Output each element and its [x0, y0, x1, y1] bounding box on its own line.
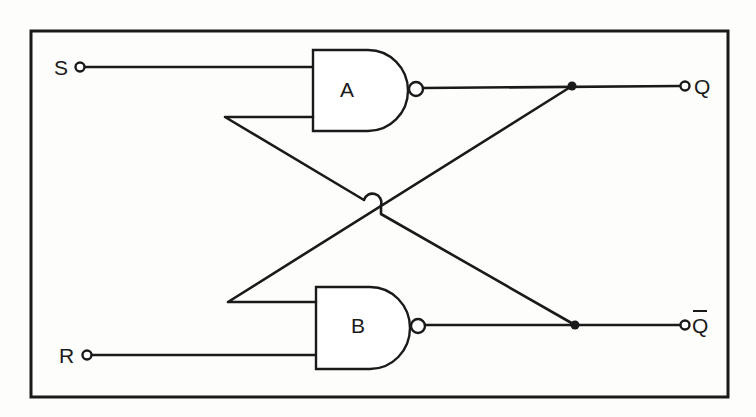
gate-b-label: B: [351, 314, 365, 337]
sr-latch-diagram: S R A B: [0, 0, 756, 417]
input-r-terminal: [83, 351, 92, 360]
output-qbar-label: Q: [692, 314, 708, 337]
output-qbar: Q: [681, 311, 709, 337]
junction-q: [568, 82, 577, 91]
feedback-qbar-to-gate-a: [225, 117, 575, 325]
input-s: S: [54, 56, 313, 79]
input-s-terminal: [76, 63, 85, 72]
nand-gate-b: B: [316, 287, 680, 369]
feedback-q-to-gate-b: [228, 86, 572, 302]
output-q: Q: [681, 75, 711, 98]
input-s-label: S: [54, 56, 68, 79]
gate-a-body: [313, 50, 408, 131]
output-q-terminal: [681, 82, 690, 91]
nand-gate-a: A: [313, 50, 680, 131]
output-qbar-terminal: [681, 321, 690, 330]
gate-a-inversion-bubble: [409, 82, 423, 96]
wire-gate-a-to-q: [423, 86, 680, 88]
junction-qbar: [571, 321, 580, 330]
input-r: R: [59, 344, 316, 367]
gate-a-label: A: [340, 78, 354, 101]
output-q-label: Q: [694, 75, 710, 98]
input-r-label: R: [59, 344, 74, 367]
gate-b-inversion-bubble: [411, 319, 425, 333]
